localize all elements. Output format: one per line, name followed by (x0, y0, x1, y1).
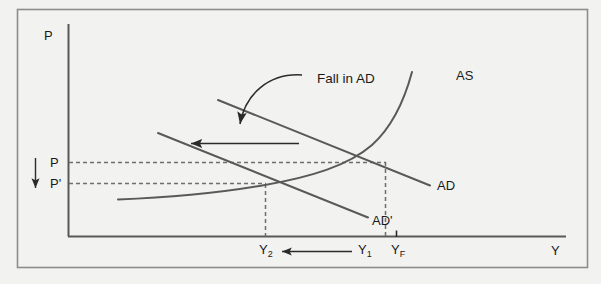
diagram-canvas (0, 0, 601, 284)
x-axis-label: Y (551, 244, 560, 257)
price-label-p: P (50, 156, 59, 169)
output-label-y2: Y2 (259, 243, 273, 256)
as-curve-label: AS (456, 69, 473, 82)
output-label-yf-sub: F (400, 249, 406, 259)
y-axis-label: P (44, 29, 53, 42)
callout-arrow (240, 75, 302, 124)
ad-prime-curve-label: AD' (372, 214, 393, 227)
output-label-y1-text: Y (358, 242, 367, 257)
price-label-p-prime: P' (50, 177, 61, 190)
fall-in-ad-annotation: Fall in AD (317, 72, 375, 86)
output-label-yf: YF (391, 243, 405, 256)
output-label-y1: Y1 (358, 243, 372, 256)
output-label-yf-text: Y (391, 242, 400, 257)
figure-border (18, 10, 588, 268)
ad-prime-curve (158, 133, 368, 218)
ad-curve (218, 100, 430, 186)
ad-curve-label: AD (437, 179, 455, 192)
output-label-y1-sub: 1 (367, 249, 372, 259)
output-label-y2-sub: 2 (268, 249, 273, 259)
output-label-y2-text: Y (259, 242, 268, 257)
as-curve (118, 72, 412, 200)
ad-as-diagram: P Y P P' Y2 Y1 YF AS AD AD' Fall in AD (0, 0, 601, 284)
